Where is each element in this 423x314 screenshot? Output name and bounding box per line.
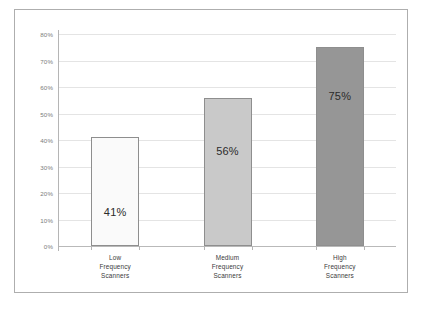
x-axis-category-label-line: Scanners: [59, 271, 171, 280]
x-axis-category-label-line: Frequency: [59, 262, 171, 271]
bar-value-label: 41%: [92, 206, 138, 218]
chart-frame: 41%56%75% 80%70%60%50%40%30%20%10%0%LowF…: [14, 9, 408, 293]
bar: 56%: [204, 98, 252, 246]
bar-value-label: 56%: [205, 145, 251, 157]
y-axis-tick-label: 70%: [15, 57, 53, 64]
x-axis-category-label: LowFrequencyScanners: [59, 253, 171, 281]
axis-baseline: [59, 246, 396, 247]
bar-value-label: 75%: [317, 90, 363, 102]
x-axis-category-label-line: Low: [59, 253, 171, 262]
x-axis-category-label-line: Frequency: [284, 262, 396, 271]
x-axis-category-label-line: High: [284, 253, 396, 262]
x-axis-category-label-line: Medium: [171, 253, 283, 262]
y-axis-tick-label: 20%: [15, 190, 53, 197]
x-axis-category-label-line: Scanners: [284, 271, 396, 280]
y-axis-tick-label: 60%: [15, 84, 53, 91]
bar: 75%: [316, 47, 364, 246]
x-axis-tick-mark: [204, 246, 205, 250]
y-axis-tick-label: 0%: [15, 243, 53, 250]
plot-area: 41%56%75%: [59, 34, 396, 246]
x-axis-category-label: MediumFrequencyScanners: [171, 253, 283, 281]
bar: 41%: [91, 137, 139, 246]
y-axis-tick-label: 40%: [15, 137, 53, 144]
x-axis-tick-mark: [139, 246, 140, 250]
x-axis-tick-mark: [252, 246, 253, 250]
x-axis-tick-mark: [91, 246, 92, 250]
y-axis-tick-label: 30%: [15, 163, 53, 170]
y-axis-tick-label: 50%: [15, 110, 53, 117]
x-axis-category-label: HighFrequencyScanners: [284, 253, 396, 281]
x-axis-category-label-line: Scanners: [171, 271, 283, 280]
gridline: [59, 34, 396, 35]
x-axis-tick-mark: [364, 246, 365, 250]
x-axis-category-label-line: Frequency: [171, 262, 283, 271]
y-axis-tick-label: 10%: [15, 216, 53, 223]
x-axis-tick-mark: [316, 246, 317, 250]
y-axis-tick-label: 80%: [15, 31, 53, 38]
